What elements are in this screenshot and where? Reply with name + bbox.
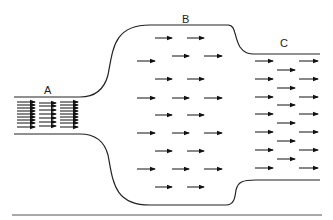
section-label-c: C (280, 37, 288, 49)
section-c-arrows (255, 61, 318, 168)
section-b-arrows (137, 38, 222, 187)
flow-diagram: A B C (0, 0, 333, 220)
pipe-lower-wall (14, 134, 320, 205)
section-a-arrows (17, 102, 78, 127)
pipe-upper-wall (14, 25, 320, 97)
section-label-a: A (44, 84, 51, 96)
pipe-flow-svg (0, 0, 333, 220)
section-label-b: B (182, 13, 189, 25)
